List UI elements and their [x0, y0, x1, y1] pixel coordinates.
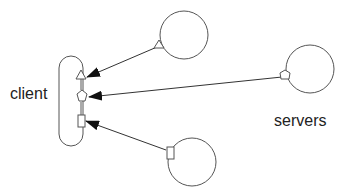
client-rectangle-port-icon: [78, 115, 85, 127]
client-server-diagram: [0, 0, 341, 193]
edge-right-to-client: [89, 77, 282, 97]
servers-label: servers: [274, 113, 326, 129]
client-triangle-port-icon: [76, 70, 86, 79]
server-triangle-port-icon: [154, 40, 164, 48]
server-bottom-node: [168, 138, 216, 186]
client-label: client: [10, 86, 47, 102]
client-pentagon-port-icon: [77, 90, 87, 101]
server-rectangle-port-icon: [167, 147, 174, 159]
server-pentagon-port-icon: [280, 70, 290, 79]
server-top-node: [160, 11, 208, 59]
server-right-node: [286, 45, 334, 93]
edge-top-to-client: [87, 47, 157, 77]
edge-bottom-to-client: [86, 121, 166, 150]
